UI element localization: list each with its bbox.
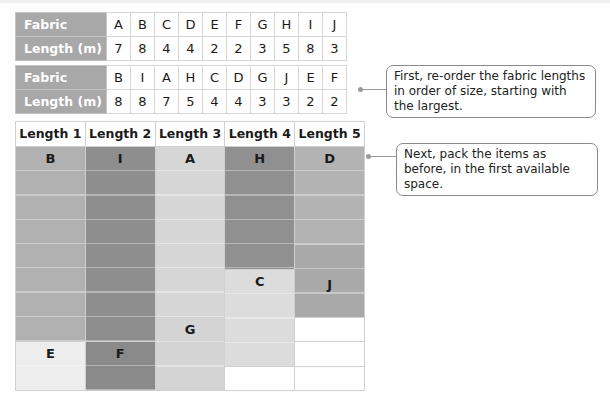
fabric-cell: J	[323, 13, 347, 37]
length-row: Length (m) 7 8 4 4 2 2 3 5 8 3	[16, 37, 347, 61]
piece-label: J	[295, 245, 364, 292]
empty-slot	[295, 366, 364, 390]
fabric-piece: F	[86, 341, 155, 390]
fabric-cell: A	[107, 13, 131, 37]
top-band	[0, 0, 610, 3]
fabric-cell: G	[251, 66, 275, 90]
fabric-cell: I	[131, 66, 155, 90]
length-cell: 8	[299, 37, 323, 61]
connector-line	[370, 156, 396, 157]
piece-label: F	[86, 342, 155, 361]
fabric-row: Fabric A B C D E F G H I J	[16, 13, 347, 37]
piece-label: I	[86, 147, 155, 166]
piece-label: B	[16, 147, 85, 166]
empty-slot	[295, 341, 364, 365]
empty-slot	[295, 317, 364, 341]
piece-label: A	[156, 147, 225, 166]
fabric-piece: J	[295, 244, 364, 317]
length-cell: 4	[155, 37, 179, 61]
fabric-cell: A	[155, 66, 179, 90]
fabric-cell: B	[107, 66, 131, 90]
fabric-piece: I	[86, 147, 155, 341]
piece-label: G	[156, 318, 225, 337]
piece-label: E	[16, 342, 85, 361]
length-cell: 8	[131, 90, 155, 114]
grid-header: Length 1 Length 2 Length 3 Length 4 Leng…	[16, 122, 364, 147]
connector-line	[362, 89, 386, 90]
fabric-piece: C	[225, 269, 294, 366]
length-cell: 2	[227, 37, 251, 61]
fabric-piece: B	[16, 147, 85, 341]
length-cell: 8	[131, 37, 155, 61]
fabric-cell: F	[227, 13, 251, 37]
fabric-cell: D	[179, 13, 203, 37]
fabric-piece: A	[156, 147, 225, 317]
length-cell: 3	[275, 90, 299, 114]
fabric-piece: D	[295, 147, 364, 244]
piece-label: D	[295, 147, 364, 166]
column-header: Length 4	[225, 122, 295, 146]
grid-body: BEIFAGHCDJ	[16, 147, 364, 390]
piece-label: C	[225, 270, 294, 289]
fabric-piece: E	[16, 341, 85, 390]
fabric-cell: C	[203, 66, 227, 90]
row-label: Fabric	[16, 13, 107, 37]
length-cell: 7	[107, 37, 131, 61]
fabric-row: Fabric B I A H C D G J E F	[16, 66, 347, 90]
fabric-piece: H	[225, 147, 294, 269]
column-header: Length 1	[16, 122, 86, 146]
length-cell: 8	[107, 90, 131, 114]
fabric-cell: E	[203, 13, 227, 37]
grid-column: DJ	[295, 147, 364, 390]
length-row: Length (m) 8 8 7 5 4 4 3 3 2 2	[16, 90, 347, 114]
length-cell: 2	[299, 90, 323, 114]
fabric-cell: I	[299, 13, 323, 37]
fabric-cell: H	[179, 66, 203, 90]
length-cell: 2	[323, 90, 347, 114]
row-label: Length (m)	[16, 37, 107, 61]
fabric-piece: G	[156, 317, 225, 390]
grid-column: HC	[225, 147, 295, 390]
fabric-cell: J	[275, 66, 299, 90]
length-cell: 7	[155, 90, 179, 114]
fabric-cell: G	[251, 13, 275, 37]
length-cell: 4	[179, 37, 203, 61]
fabric-cell: F	[323, 66, 347, 90]
fabric-cell: E	[299, 66, 323, 90]
length-cell: 5	[179, 90, 203, 114]
packing-grid: Length 1 Length 2 Length 3 Length 4 Leng…	[15, 121, 365, 391]
length-cell: 5	[275, 37, 299, 61]
row-label: Fabric	[16, 66, 107, 90]
fabric-cell: C	[155, 13, 179, 37]
callout-reorder: First, re-order the fabric lengths in or…	[386, 65, 596, 118]
fabric-cell: H	[275, 13, 299, 37]
column-header: Length 5	[295, 122, 364, 146]
length-cell: 3	[251, 37, 275, 61]
fabric-cell: D	[227, 66, 251, 90]
empty-slot	[225, 366, 294, 390]
piece-label: H	[225, 147, 294, 166]
grid-column: BE	[16, 147, 86, 390]
row-label: Length (m)	[16, 90, 107, 114]
length-cell: 3	[323, 37, 347, 61]
length-cell: 3	[251, 90, 275, 114]
grid-column: IF	[86, 147, 156, 390]
column-header: Length 3	[156, 122, 226, 146]
length-cell: 4	[203, 90, 227, 114]
length-cell: 4	[227, 90, 251, 114]
length-cell: 2	[203, 37, 227, 61]
column-header: Length 2	[86, 122, 156, 146]
callout-pack: Next, pack the items as before, in the f…	[396, 143, 598, 196]
grid-column: AG	[156, 147, 226, 390]
sorted-fabric-table: Fabric B I A H C D G J E F Length (m) 8 …	[15, 65, 347, 114]
original-fabric-table: Fabric A B C D E F G H I J Length (m) 7 …	[15, 12, 347, 61]
fabric-cell: B	[131, 13, 155, 37]
